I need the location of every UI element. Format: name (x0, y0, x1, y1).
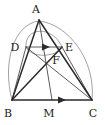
vertex-label-m: M (43, 107, 54, 120)
vertex-label-b: B (4, 107, 12, 120)
vertex-label-d: D (11, 41, 20, 54)
arrowhead-de-icon (42, 44, 50, 51)
geometry-diagram: A D E F B M C (0, 0, 105, 125)
arrowhead-bc-icon (58, 97, 66, 104)
geometry-canvas: A D E F B M C (0, 0, 105, 125)
segment-a-b (12, 20, 39, 100)
label-group: A D E F B M C (4, 3, 97, 120)
vertex-label-e: E (65, 41, 73, 54)
segment-a-c (39, 20, 92, 100)
vertex-label-f: F (52, 54, 60, 67)
vertex-label-a: A (31, 3, 41, 16)
vertex-label-c: C (89, 107, 97, 120)
